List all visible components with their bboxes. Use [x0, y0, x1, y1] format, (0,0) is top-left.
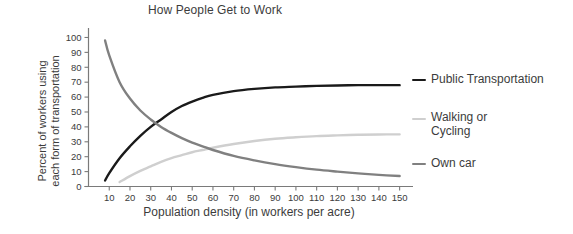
x-tick-label: 150: [392, 192, 408, 203]
chart-container: How People Get to Work Percent of worker…: [0, 0, 573, 234]
x-tick-label: 140: [371, 192, 387, 203]
axis-ticks: 0102030405060708090100102030405060708090…: [66, 32, 408, 203]
series-line: [120, 134, 400, 182]
x-tick-label: 50: [187, 192, 198, 203]
y-tick-label: 80: [71, 62, 82, 73]
y-tick-label: 100: [66, 32, 82, 43]
y-tick-label: 10: [71, 166, 82, 177]
x-tick-label: 10: [104, 192, 115, 203]
y-tick-label: 40: [71, 121, 82, 132]
y-tick-label: 20: [71, 151, 82, 162]
y-tick-label: 50: [71, 106, 82, 117]
x-tick-label: 100: [288, 192, 304, 203]
y-tick-label: 0: [76, 181, 81, 192]
y-tick-label: 30: [71, 136, 82, 147]
x-tick-label: 30: [145, 192, 156, 203]
legend-label: Public Transportation: [431, 72, 544, 86]
x-tick-label: 20: [125, 192, 136, 203]
x-tick-label: 120: [329, 192, 345, 203]
legend-swatch: [412, 118, 426, 120]
x-tick-label: 80: [249, 192, 260, 203]
x-tick-label: 70: [228, 192, 239, 203]
y-tick-label: 70: [71, 76, 82, 87]
data-series: [105, 40, 400, 182]
x-tick-label: 130: [350, 192, 366, 203]
series-line: [105, 40, 400, 176]
y-tick-label: 60: [71, 91, 82, 102]
x-tick-label: 110: [309, 192, 324, 203]
legend-label: Own car: [431, 156, 476, 170]
legend-swatch: [412, 163, 426, 165]
x-axis-label: Population density (in workers per acre): [88, 205, 410, 219]
x-tick-label: 60: [208, 192, 219, 203]
y-tick-label: 90: [71, 47, 82, 58]
axes: [85, 28, 414, 187]
x-tick-label: 40: [166, 192, 177, 203]
legend-swatch: [412, 79, 426, 81]
x-tick-label: 90: [270, 192, 281, 203]
legend-label: Walking or Cycling: [431, 110, 487, 138]
